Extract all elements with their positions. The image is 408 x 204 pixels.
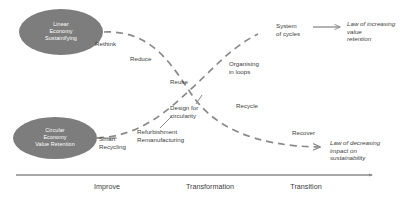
ascending-dashed-curve: [97, 34, 258, 138]
label-recycle: Recycle: [236, 102, 258, 110]
axis-stage-transition: Transition: [290, 182, 321, 191]
axis-stage-transformation: Transformation: [186, 182, 234, 191]
label-refurbishment: Refurbishment Remanufacturing: [137, 128, 184, 143]
connector-design-circularity: [196, 95, 202, 104]
label-law-decreasing: Law of decreasing impact on sustainabili…: [330, 139, 380, 162]
label-organising-loops: Organising in loops: [229, 60, 259, 75]
label-recover: Recover: [292, 129, 315, 137]
label-reuse: Reuse: [170, 78, 188, 86]
label-law-increasing: Law of increasing value retention: [347, 20, 395, 43]
label-smart-recycling: Smart Recycling: [99, 135, 126, 150]
diagram-canvas: Linear Economy Sustainifying Circular Ec…: [0, 0, 408, 204]
label-design-circularity: Design for circularity: [170, 104, 198, 119]
axis-stage-improve: Improve: [94, 182, 120, 191]
label-reduce: Reduce: [130, 55, 151, 63]
node-circular-economy: [13, 117, 97, 159]
label-rethink: Rethink: [95, 40, 116, 48]
node-linear-economy: [19, 9, 103, 55]
label-system-cycles: System of cycles: [276, 22, 300, 37]
